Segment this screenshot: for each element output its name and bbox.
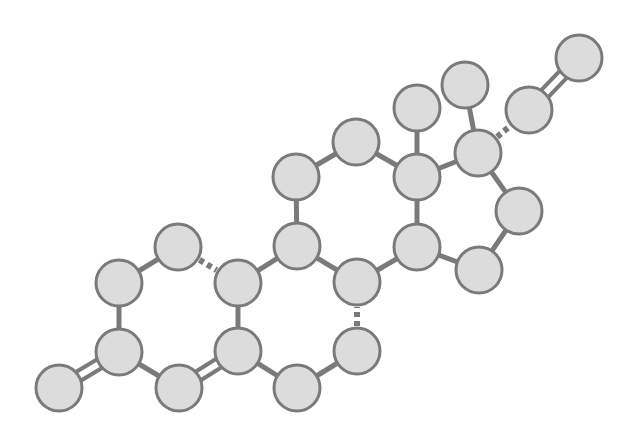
molecule-canvas (0, 0, 635, 437)
atom-a10 (334, 259, 380, 305)
atom-a22 (556, 35, 602, 81)
atom-a15 (394, 224, 440, 270)
atom-a1 (36, 365, 82, 411)
atom-a11 (274, 223, 320, 269)
molecule-diagram (0, 0, 635, 437)
atom-a16 (456, 247, 502, 293)
atom-a5 (215, 260, 261, 306)
atom-a21 (506, 87, 552, 133)
atom-a4 (155, 224, 201, 270)
atom-a12 (273, 154, 319, 200)
atom-a2 (96, 329, 142, 375)
bond-dashed (199, 260, 216, 270)
atom-a17 (496, 188, 542, 234)
atom-a8 (274, 365, 320, 411)
atom-layer (36, 35, 602, 411)
atom-a7 (156, 365, 202, 411)
atom-a18 (455, 130, 501, 176)
atom-a6 (215, 328, 261, 374)
atom-a9 (334, 328, 380, 374)
atom-a3 (96, 260, 142, 306)
atom-a19 (394, 85, 440, 131)
atom-a14 (394, 154, 440, 200)
atom-a13 (333, 119, 379, 165)
atom-a20 (442, 62, 488, 108)
bond-dashed (497, 126, 510, 137)
